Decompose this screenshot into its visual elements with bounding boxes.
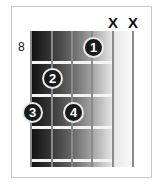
mute-marker: X (107, 14, 119, 31)
finger-dot-2: 2 (42, 68, 63, 89)
mute-marker: X (127, 14, 139, 31)
string-line (51, 31, 53, 167)
finger-dot-4: 4 (63, 102, 84, 123)
finger-dot-1: 1 (83, 37, 104, 58)
string-line (132, 31, 134, 167)
start-fret-label: 8 (18, 40, 25, 54)
fretboard (31, 31, 133, 167)
string-line (71, 31, 73, 167)
finger-dot-3: 3 (22, 102, 43, 123)
string-line (30, 31, 32, 167)
string-line (112, 31, 114, 167)
